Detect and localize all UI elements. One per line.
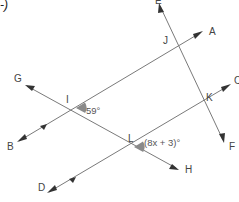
arrow-B-icon [17, 134, 27, 142]
angle-label-L: (8x + 3)° [144, 137, 180, 148]
label-K: K [206, 92, 213, 103]
label-F: F [229, 141, 235, 152]
arrow-D-icon [47, 185, 57, 193]
arrow-A-icon [193, 31, 203, 39]
label-H: H [185, 164, 192, 175]
transversal-GH [25, 85, 179, 170]
corner-mark: -) [0, 0, 8, 12]
angle-label-I: 59° [86, 105, 101, 116]
label-B: B [7, 141, 14, 152]
arrow-C-icon [221, 84, 231, 92]
label-L: L [128, 133, 134, 144]
line-DC [47, 84, 231, 193]
label-D: D [38, 182, 45, 193]
label-G: G [14, 73, 22, 84]
label-E: E [155, 0, 162, 6]
geometry-diagram: -) E A J G C K I B L F H D 59° (8x + 3)° [0, 0, 239, 202]
label-C: C [234, 75, 239, 86]
parallel-tick-icon [40, 124, 47, 130]
label-I: I [66, 94, 69, 105]
arrow-F-icon [219, 133, 225, 143]
label-J: J [163, 35, 168, 46]
angle-marker-L-icon [134, 142, 145, 153]
line-BA [17, 31, 203, 142]
label-A: A [209, 26, 216, 37]
